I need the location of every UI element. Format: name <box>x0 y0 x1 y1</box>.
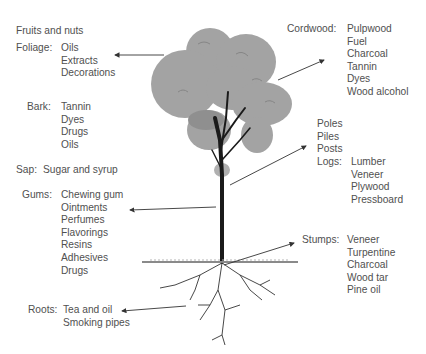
list-item: Adhesives <box>61 252 123 265</box>
list-item: Poles <box>317 118 342 131</box>
list-item: Flavorings <box>61 227 123 240</box>
list-item: Oils <box>61 42 115 55</box>
label-cordwood: Cordwood: <box>287 23 336 36</box>
list-item: Extracts <box>61 55 115 68</box>
label-fruits: Fruits and nuts <box>16 25 83 38</box>
list-item: Drugs <box>61 126 91 139</box>
list-item: Pine oil <box>347 284 395 297</box>
list-item: Plywood <box>351 181 403 194</box>
roots <box>160 263 275 345</box>
list-item: Wood tar <box>347 272 395 285</box>
list-roots: Tea and oil Smoking pipes <box>63 304 130 329</box>
list-item: Oils <box>61 139 91 152</box>
list-gums: Chewing gum Ointments Perfumes Flavoring… <box>61 189 123 277</box>
list-item: Lumber <box>351 156 403 169</box>
label-stumps: Stumps: <box>302 234 339 247</box>
list-item: Fuel <box>347 36 409 49</box>
label-sap: Sap: <box>16 164 37 177</box>
list-item: Dyes <box>61 114 91 127</box>
list-item: Dyes <box>347 73 409 86</box>
list-item: Pressboard <box>351 194 403 207</box>
label-bark: Bark: <box>27 101 51 114</box>
list-item: Piles <box>317 131 342 144</box>
list-item: Charcoal <box>347 48 409 61</box>
list-item: Tannin <box>61 101 91 114</box>
list-trunk: Poles Piles Posts <box>317 118 342 156</box>
list-item: Perfumes <box>61 214 123 227</box>
label-foliage: Foliage: <box>16 42 52 55</box>
list-item: Tea and oil <box>63 304 130 317</box>
list-item: Veneer <box>351 169 403 182</box>
list-item: Turpentine <box>347 247 395 260</box>
list-item: Ointments <box>61 202 123 215</box>
list-item: Pulpwood <box>347 23 409 36</box>
list-item: Chewing gum <box>61 189 123 202</box>
list-foliage: Oils Extracts Decorations <box>61 42 115 80</box>
list-item: Charcoal <box>347 259 395 272</box>
ground-line <box>142 260 298 262</box>
list-stumps: Veneer Turpentine Charcoal Wood tar Pine… <box>347 234 395 297</box>
list-item: Posts <box>317 143 342 156</box>
list-bark: Tannin Dyes Drugs Oils <box>61 101 91 151</box>
label-gums: Gums: <box>22 189 52 202</box>
list-cordwood: Pulpwood Fuel Charcoal Tannin Dyes Wood … <box>347 23 409 99</box>
list-item: Drugs <box>61 265 123 278</box>
list-item: Decorations <box>61 67 115 80</box>
list-item: Smoking pipes <box>63 317 130 330</box>
list-sap: Sugar and syrup <box>43 164 118 177</box>
list-item: Tannin <box>347 61 409 74</box>
label-logs: Logs: <box>317 156 342 169</box>
list-item: Wood alcohol <box>347 86 409 99</box>
list-item: Resins <box>61 239 123 252</box>
label-roots: Roots: <box>28 304 57 317</box>
list-item: Veneer <box>347 234 395 247</box>
list-logs: Lumber Veneer Plywood Pressboard <box>351 156 403 206</box>
